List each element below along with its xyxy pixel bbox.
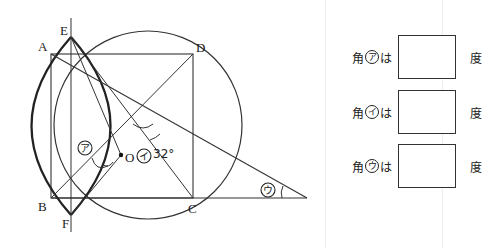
mark-a: ア xyxy=(80,143,90,154)
answer-box-a[interactable] xyxy=(398,35,456,79)
line-ec xyxy=(71,37,193,198)
answer-suffix: は xyxy=(380,49,392,66)
label-e: E xyxy=(60,23,68,38)
answer-prefix: 角 xyxy=(352,158,364,175)
answer-suffix: は xyxy=(380,104,392,121)
answer-row-i: 角イは 度 xyxy=(352,90,482,134)
mark-i: イ xyxy=(139,151,149,162)
line-eo xyxy=(71,37,121,155)
answer-row-u: 角ウは 度 xyxy=(352,144,482,188)
line-bd xyxy=(51,54,193,198)
line-fo xyxy=(71,155,121,215)
label-b: B xyxy=(38,199,47,214)
angle-arc-32 xyxy=(150,134,160,140)
answer-unit-u: 度 xyxy=(470,158,482,175)
label-d: D xyxy=(196,40,205,55)
answer-mark-i: イ xyxy=(365,105,379,119)
point-o xyxy=(119,153,123,157)
page-rule xyxy=(325,0,326,248)
label-f: F xyxy=(62,216,69,231)
line-a-apex xyxy=(51,54,307,198)
given-angle-label: 32° xyxy=(153,147,174,161)
answer-prefix: 角 xyxy=(352,104,364,121)
answer-unit-i: 度 xyxy=(470,104,482,121)
answer-label-a: 角アは xyxy=(352,49,398,66)
answer-box-u[interactable] xyxy=(398,144,456,188)
answer-label-u: 角ウは xyxy=(352,158,398,175)
geometry-figure: A E D B F C O ア イ ウ 32° xyxy=(0,0,320,248)
angle-arc-i xyxy=(133,124,153,128)
answer-label-i: 角イは xyxy=(352,104,398,121)
label-o: O xyxy=(125,150,134,165)
answer-mark-u: ウ xyxy=(365,159,379,173)
angle-arc-u xyxy=(281,186,283,198)
answer-prefix: 角 xyxy=(352,49,364,66)
answer-mark-a: ア xyxy=(365,50,379,64)
answer-unit-a: 度 xyxy=(470,49,482,66)
label-c: C xyxy=(188,201,197,216)
label-a: A xyxy=(38,39,48,54)
mark-u: ウ xyxy=(263,185,273,196)
answer-row-a: 角アは 度 xyxy=(352,35,482,79)
outer-circle xyxy=(54,31,242,219)
answer-box-i[interactable] xyxy=(398,90,456,134)
answer-suffix: は xyxy=(380,158,392,175)
